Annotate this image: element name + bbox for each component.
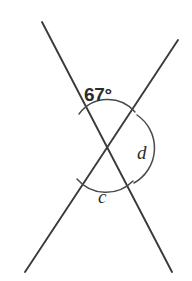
line-top-right-to-bottom-left <box>25 40 178 272</box>
figure-canvas <box>0 0 192 281</box>
angle-label-c: c <box>98 187 106 206</box>
geometry-figure: 67° d c <box>0 0 192 281</box>
angle-label-67: 67° <box>84 85 112 104</box>
angle-label-d: d <box>137 143 147 162</box>
